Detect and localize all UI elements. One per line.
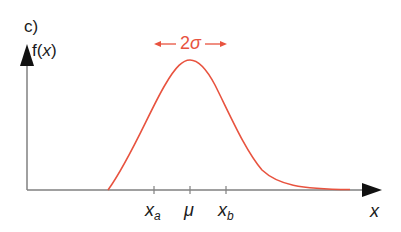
tick-label-xb: xb bbox=[218, 201, 234, 222]
x-axis-label: x bbox=[370, 202, 379, 220]
tick-label-xa: xa bbox=[145, 201, 161, 222]
width-annotation: 2σ bbox=[180, 34, 201, 52]
y-axis-label-fn: f( bbox=[32, 41, 42, 60]
sigma-right-arrow-icon bbox=[220, 41, 227, 47]
width-annotation-prefix: 2 bbox=[180, 33, 190, 53]
panel-label: c) bbox=[24, 18, 38, 35]
y-axis-label: f(x) bbox=[32, 42, 57, 59]
density-curve bbox=[108, 60, 350, 190]
tick-label-mu-main: μ bbox=[184, 200, 194, 220]
tick-label-mu: μ bbox=[184, 201, 194, 219]
tick-label-xa-sub: a bbox=[154, 209, 161, 223]
y-axis-label-var: x bbox=[42, 41, 51, 60]
sigma-left-arrow-icon bbox=[154, 41, 161, 47]
width-annotation-symbol: σ bbox=[190, 33, 201, 53]
tick-label-xa-main: x bbox=[145, 200, 154, 220]
y-axis-label-close: ) bbox=[51, 41, 57, 60]
x-axis-arrow-icon bbox=[362, 183, 382, 197]
tick-label-xb-sub: b bbox=[227, 209, 234, 223]
tick-label-xb-main: x bbox=[218, 200, 227, 220]
